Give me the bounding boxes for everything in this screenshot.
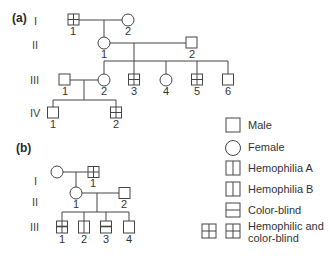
a-III-3-number: 3 <box>131 86 137 97</box>
legend-male-icon <box>226 118 240 132</box>
a-II-1-number: 1 <box>101 49 107 60</box>
legend-hemophilic-color-blind-label-1: Hemophilic and <box>248 221 324 232</box>
a-III-6-male-icon <box>223 74 234 85</box>
a-I-1-number: 1 <box>70 26 76 37</box>
a-II-2-number: 2 <box>189 49 195 60</box>
a-III-4-number: 4 <box>163 86 169 97</box>
a-III-5-number: 5 <box>194 86 200 97</box>
b-III-3-number: 3 <box>103 234 109 245</box>
legend-hemophilia-b-icon <box>226 182 240 196</box>
b-generation-III: III <box>30 222 39 233</box>
b-III-2-hemophilia-male-icon <box>79 221 90 233</box>
a-III-2-number: 2 <box>101 86 107 97</box>
legend-hemophilic-color-blind-label-2: color-blind <box>248 233 299 244</box>
b-III-4-male-icon <box>124 221 135 233</box>
a-IV-2-number: 2 <box>113 119 119 130</box>
a-generation-III: III <box>30 75 39 86</box>
a-IV-1-male-icon <box>48 107 59 118</box>
a-generation-I: I <box>34 16 37 27</box>
b-I-2-number: 1 <box>90 178 96 189</box>
panel-b-label: (b) <box>16 142 31 154</box>
a-generation-IV: IV <box>30 108 40 119</box>
a-generation-II: II <box>32 40 38 51</box>
a-I-2-number: 2 <box>125 26 131 37</box>
a-III-3-affected-male-icon <box>129 74 140 85</box>
b-I-1-female-icon <box>51 166 63 178</box>
a-IV-1-number: 1 <box>50 119 56 130</box>
b-III-2-number: 2 <box>81 234 87 245</box>
b-generation-II: II <box>32 197 38 208</box>
a-I-1-affected-male-icon <box>68 14 79 25</box>
legend-female-label: Female <box>248 142 285 153</box>
a-II-2-male-icon <box>186 37 197 48</box>
a-III-1-number: 1 <box>62 86 68 97</box>
b-II-1-number: 1 <box>73 199 79 210</box>
b-III-1-number: 1 <box>59 234 65 245</box>
b-II-2-number: 2 <box>121 199 127 210</box>
b-I-2-affected-male-icon <box>88 167 99 178</box>
b-generation-I: I <box>34 176 37 187</box>
legend-hemophilia-a-icon <box>226 161 240 175</box>
b-III-1-affected-male-icon <box>57 221 68 233</box>
b-III-3-color-blind-male-icon <box>101 221 112 233</box>
a-III-6-number: 6 <box>225 86 231 97</box>
b-II-2-male-icon <box>119 188 130 199</box>
legend-color-blind-label: Color-blind <box>248 205 301 216</box>
a-III-5-affected-male-icon <box>192 74 203 85</box>
legend-hemophilia-a-label: Hemophilia A <box>248 163 313 174</box>
a-III-1-male-icon <box>59 74 70 85</box>
legend-hemophilia-b-label: Hemophilia B <box>248 184 313 195</box>
legend-male-label: Male <box>248 120 272 131</box>
panel-a-label: (a) <box>12 12 27 24</box>
a-IV-2-affected-male-icon <box>111 107 122 118</box>
legend-female-icon <box>226 141 241 156</box>
legend-hemophilic-color-blind-icon <box>202 224 240 238</box>
legend-color-blind-icon <box>226 203 240 217</box>
b-III-4-number: 4 <box>126 234 132 245</box>
